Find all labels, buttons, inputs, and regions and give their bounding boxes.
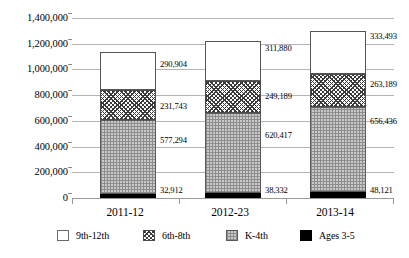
x-axis-tick-mark: [286, 198, 287, 204]
data-label-2013-14-9th-12th: 333,493: [370, 32, 397, 41]
bar-2013-14[interactable]: [310, 31, 366, 198]
bar-segment-9th-12th[interactable]: [310, 31, 366, 74]
legend-label-ages-3-5: Ages 3-5: [319, 230, 355, 241]
bar-segment-ages-3-5[interactable]: [310, 192, 366, 198]
x-axis-tick-mark: [393, 198, 394, 204]
data-label-2012-23-k-4th: 620,417: [265, 131, 292, 140]
data-label-2011-12-9th-12th: 290,904: [160, 60, 187, 69]
legend: 9th-12th 6th-8th K-4th Ages 3-5: [57, 228, 357, 244]
bar-segment-6th-8th[interactable]: [310, 74, 366, 108]
y-axis-tick-label: 1,400,000: [2, 13, 68, 23]
y-axis-tick-mark: [68, 13, 72, 14]
data-label-2013-14-6th-8th: 263,189: [370, 80, 397, 89]
bar-segment-9th-12th[interactable]: [205, 41, 261, 81]
bar-2011-12[interactable]: [100, 52, 156, 198]
x-axis-tick-mark: [72, 198, 73, 204]
gridline: [72, 18, 394, 19]
legend-swatch-ages-3-5-icon: [300, 230, 312, 241]
legend-swatch-9th-12th-icon: [57, 230, 69, 241]
y-axis-tick-label: 1,000,000: [2, 64, 68, 74]
bar-segment-6th-8th[interactable]: [205, 81, 261, 113]
x-axis-category-2013-14: 2013-14: [287, 206, 383, 218]
legend-item-9th-12th[interactable]: 9th-12th: [57, 228, 109, 242]
bar-segment-9th-12th[interactable]: [100, 52, 156, 89]
legend-item-6th-8th[interactable]: 6th-8th: [143, 228, 190, 242]
legend-item-ages-3-5[interactable]: Ages 3-5: [300, 228, 355, 242]
y-axis-tick-label: 600,000: [2, 116, 68, 126]
bar-segment-ages-3-5[interactable]: [100, 194, 156, 198]
legend-swatch-6th-8th-icon: [143, 230, 155, 241]
x-axis-baseline: [72, 198, 394, 199]
data-label-2012-23-6th-8th: 249,189: [265, 92, 292, 101]
data-label-2013-14-ages-3-5: 48,121: [370, 186, 393, 195]
legend-swatch-k-4th-icon: [226, 230, 238, 241]
data-label-2012-23-ages-3-5: 38,332: [265, 186, 288, 195]
stacked-bar-chart: 1,400,000 1,200,000 1,000,000 800,000 60…: [0, 0, 409, 258]
bar-segment-k-4th[interactable]: [310, 107, 366, 191]
y-axis-tick-label: 0: [2, 193, 68, 203]
bar-segment-k-4th[interactable]: [100, 120, 156, 194]
data-label-2012-23-9th-12th: 311,880: [265, 44, 292, 53]
y-axis-tick-label: 400,000: [2, 142, 68, 152]
legend-item-k-4th[interactable]: K-4th: [226, 228, 268, 242]
y-axis-tick-label: 200,000: [2, 167, 68, 177]
legend-label-6th-8th: 6th-8th: [162, 230, 190, 241]
bar-2012-23[interactable]: [205, 41, 261, 198]
bar-segment-k-4th[interactable]: [205, 113, 261, 193]
legend-label-k-4th: K-4th: [245, 230, 268, 241]
bar-segment-6th-8th[interactable]: [100, 90, 156, 120]
x-axis-category-2012-23: 2012-23: [182, 206, 278, 218]
data-label-2013-14-k-4th: 656,436: [370, 117, 397, 126]
data-label-2011-12-k-4th: 577,294: [160, 136, 187, 145]
data-label-2011-12-6th-8th: 231,743: [160, 102, 187, 111]
y-axis-tick-label: 1,200,000: [2, 39, 68, 49]
plot-area: 290,904 231,743 577,294 32,912 311,880 2…: [72, 18, 394, 198]
x-axis-tick-mark: [179, 198, 180, 204]
bar-segment-ages-3-5[interactable]: [205, 193, 261, 198]
legend-label-9th-12th: 9th-12th: [76, 230, 109, 241]
x-axis-category-2011-12: 2011-12: [77, 206, 173, 218]
data-label-2011-12-ages-3-5: 32,912: [160, 186, 183, 195]
y-axis-tick-label: 800,000: [2, 90, 68, 100]
